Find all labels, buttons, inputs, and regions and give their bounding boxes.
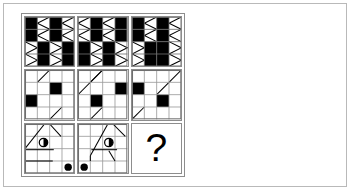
page-frame: ? [3, 3, 347, 187]
matrix-cell-r1c2[interactable] [77, 16, 128, 67]
matrix-puzzle-grid: ? [21, 13, 185, 177]
matrix-cell-r3c2[interactable] [77, 123, 128, 174]
cell-r2c2-figure [78, 70, 127, 119]
matrix-cell-r3c3-missing[interactable]: ? [131, 123, 182, 174]
matrix-cell-r2c3[interactable] [131, 69, 182, 120]
solid-dot-shape [81, 163, 88, 170]
cell-r1c2-figure [78, 17, 127, 66]
question-mark-label: ? [145, 128, 167, 167]
matrix-cell-r3c1[interactable] [24, 123, 75, 174]
half-filled-circle-shape [39, 138, 47, 146]
cell-r3c1-figure [25, 124, 74, 173]
solid-dot-shape [64, 163, 71, 170]
cell-r3c2-figure [78, 124, 127, 173]
matrix-cell-r2c2[interactable] [77, 69, 128, 120]
matrix-cell-r1c1[interactable] [24, 16, 75, 67]
half-filled-circle-shape [105, 138, 113, 146]
matrix-cell-r2c1[interactable] [24, 69, 75, 120]
cell-r2c1-figure [25, 70, 74, 119]
cell-r1c1-figure [25, 17, 74, 66]
matrix-cell-r1c3[interactable] [131, 16, 182, 67]
cell-r1c3-figure [132, 17, 181, 66]
cell-r2c3-figure [132, 70, 181, 119]
